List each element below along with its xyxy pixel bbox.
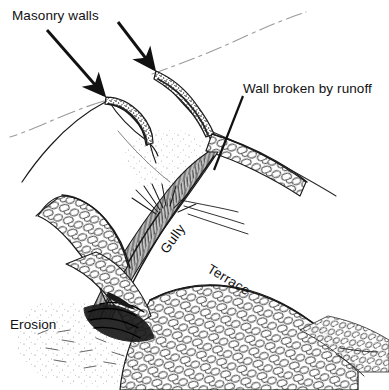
arrow-to-right-masonry-wall	[118, 22, 154, 69]
terrace-right-upper-face	[206, 134, 306, 196]
label-erosion: Erosion	[10, 318, 56, 332]
figure-masonry-walls-gully: Masonry walls Wall broken by runoff Gull…	[0, 0, 389, 390]
bank-crest-left	[22, 101, 107, 182]
gully-outwash-streaks	[180, 200, 248, 234]
label-masonry-walls: Masonry walls	[12, 9, 99, 23]
label-wall-broken-by-runoff: Wall broken by runoff	[243, 82, 372, 96]
terrace-right-lower	[120, 285, 389, 390]
terrace-right-upper	[206, 134, 307, 196]
contour-dashed-lower	[10, 101, 104, 137]
arrow-to-left-masonry-wall	[47, 30, 104, 95]
illustration-canvas	[0, 0, 389, 390]
contour-dashed-upper	[152, 12, 306, 74]
